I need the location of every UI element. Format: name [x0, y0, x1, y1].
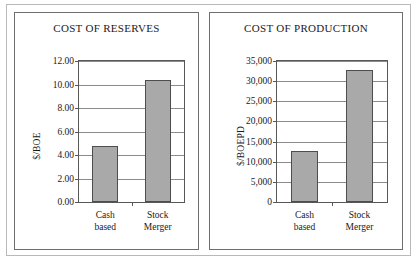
x-axis-category-label-line: Merger [144, 221, 172, 233]
x-axis-tick-mark [332, 202, 333, 206]
chart-reserves: $/BOE 0.002.004.006.008.0010.0012.00Cash… [15, 13, 198, 249]
y-axis-tick-label: 20,000 [246, 116, 272, 126]
bar [145, 80, 171, 202]
chart-panel-reserves: COST OF RESERVES $/BOE 0.002.004.006.008… [14, 12, 199, 250]
bar [346, 70, 374, 202]
y-axis-label-production: $/BOEPD [236, 109, 246, 183]
y-axis-tick-mark [273, 101, 277, 102]
x-axis-category-label: Cashbased [294, 209, 316, 233]
y-axis-tick-label: 10,000 [246, 157, 272, 167]
y-axis-tick-label: 15,000 [246, 137, 272, 147]
y-axis-tick-mark [273, 61, 277, 62]
y-axis-tick-mark [273, 142, 277, 143]
y-axis-tick-label: 0.00 [57, 197, 74, 207]
chart-panel-production: COST OF PRODUCTION $/BOEPD 05,00010,0001… [209, 12, 403, 250]
y-axis-tick-mark [75, 132, 79, 133]
y-axis-tick-label: 10.00 [53, 80, 74, 90]
y-axis-tick-label: 35,000 [246, 56, 272, 66]
y-axis-tick-label: 2.00 [57, 174, 74, 184]
gridline [277, 61, 387, 62]
y-axis-tick-label: 30,000 [246, 76, 272, 86]
chart-production: $/BOEPD 05,00010,00015,00020,00025,00030… [210, 13, 402, 249]
x-axis-category-label-line: based [94, 221, 116, 233]
bar [291, 151, 319, 202]
y-axis-label-reserves: $/BOE [32, 116, 42, 176]
y-axis-tick-label: 25,000 [246, 96, 272, 106]
y-axis-tick-mark [75, 179, 79, 180]
bar [92, 146, 118, 202]
y-axis-tick-mark [273, 202, 277, 203]
x-axis-category-label-line: Stock [346, 209, 374, 221]
y-axis-tick-label: 4.00 [57, 150, 74, 160]
y-axis-tick-mark [75, 61, 79, 62]
x-axis-category-label-line: based [294, 221, 316, 233]
x-axis-category-label: StockMerger [144, 209, 172, 233]
y-axis-tick-mark [75, 155, 79, 156]
x-axis-category-label: StockMerger [346, 209, 374, 233]
y-axis-tick-mark [273, 162, 277, 163]
y-axis-tick-label: 12.00 [53, 56, 74, 66]
y-axis-tick-label: 6.00 [57, 127, 74, 137]
y-axis-tick-mark [273, 81, 277, 82]
y-axis-tick-mark [75, 202, 79, 203]
x-axis-category-label: Cashbased [94, 209, 116, 233]
y-axis-tick-mark [75, 85, 79, 86]
plot-area-reserves: 0.002.004.006.008.0010.0012.00CashbasedS… [78, 60, 185, 203]
y-axis-tick-mark [273, 121, 277, 122]
y-axis-tick-label: 5,000 [251, 177, 272, 187]
x-axis-category-label-line: Stock [144, 209, 172, 221]
y-axis-tick-label: 8.00 [57, 103, 74, 113]
x-axis-tick-mark [132, 202, 133, 206]
plot-area-production: 05,00010,00015,00020,00025,00030,00035,0… [276, 60, 388, 203]
y-axis-tick-mark [273, 182, 277, 183]
x-axis-category-label-line: Cash [294, 209, 316, 221]
gridline [79, 61, 184, 62]
x-axis-category-label-line: Cash [94, 209, 116, 221]
x-axis-category-label-line: Merger [346, 221, 374, 233]
y-axis-tick-label: 0 [267, 197, 272, 207]
y-axis-tick-mark [75, 108, 79, 109]
page-root: COST OF RESERVES $/BOE 0.002.004.006.008… [0, 0, 418, 263]
